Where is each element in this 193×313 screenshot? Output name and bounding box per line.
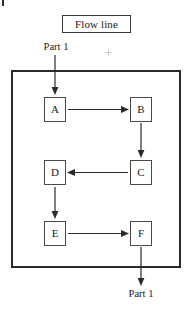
arrow-d-to-e <box>52 187 59 219</box>
arrow-f-to-output <box>138 247 145 286</box>
arrow-b-to-c <box>138 123 145 158</box>
arrow-a-to-b <box>68 106 129 113</box>
output-part-label: Part 1 <box>115 289 167 300</box>
flow-arrows <box>0 0 193 313</box>
arrow-input-to-a <box>52 55 59 95</box>
arrow-e-to-f <box>68 230 129 237</box>
flow-line-diagram: Flow line Part 1 A B C D E F <box>0 0 193 313</box>
arrow-c-to-d <box>67 169 128 176</box>
